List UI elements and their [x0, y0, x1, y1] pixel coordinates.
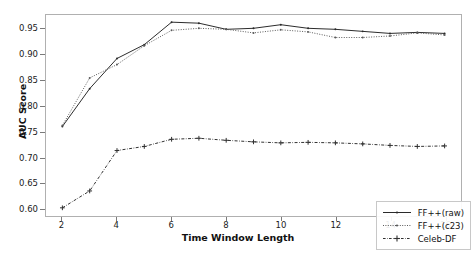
x-tick-mark — [336, 217, 337, 221]
series-marker — [143, 45, 145, 47]
legend-swatch-ffpp-raw — [382, 207, 412, 218]
x-tick-mark — [226, 217, 227, 221]
plot-area — [45, 14, 462, 217]
y-tick-label: 0.65 — [6, 178, 38, 188]
x-tick-mark — [171, 217, 172, 221]
series-marker — [362, 30, 364, 32]
series-line — [62, 138, 444, 208]
y-tick-label: 0.60 — [6, 204, 38, 214]
legend-label-ffpp-c23: FF++(c23) — [418, 221, 464, 231]
series-marker — [116, 64, 118, 66]
series-marker — [225, 28, 227, 30]
x-tick-label: 4 — [101, 220, 131, 230]
series-marker — [198, 22, 200, 24]
series-marker — [334, 37, 336, 39]
legend-label-celeb-df: Celeb-DF — [418, 234, 457, 244]
y-tick-label: 0.90 — [6, 49, 38, 59]
series-celeb-df — [60, 136, 447, 210]
series-marker — [444, 34, 446, 36]
legend-item-ffpp-raw[interactable]: FF++(raw) — [382, 206, 464, 219]
series-line — [62, 22, 444, 126]
chart-lines — [46, 15, 461, 216]
legend-swatch-celeb-df — [382, 233, 412, 244]
series-marker — [280, 29, 282, 31]
x-tick-mark — [61, 217, 62, 221]
series-marker — [389, 32, 391, 34]
series-marker — [389, 35, 391, 37]
chart-legend: FF++(raw) FF++(c23) Celeb-DF — [376, 201, 471, 250]
legend-item-ffpp-c23[interactable]: FF++(c23) — [382, 219, 464, 232]
series-marker — [171, 21, 173, 23]
legend-item-celeb-df[interactable]: Celeb-DF — [382, 232, 464, 245]
series-marker — [253, 27, 255, 29]
x-tick-mark — [281, 217, 282, 221]
x-tick-label: 2 — [46, 220, 76, 230]
series-ff-raw — [61, 21, 445, 127]
y-tick-label: 0.70 — [6, 153, 38, 163]
y-tick-label: 0.75 — [6, 127, 38, 137]
chart-figure: AUC Score 0.600.650.700.750.800.850.900.… — [0, 0, 476, 255]
x-tick-label: 8 — [211, 220, 241, 230]
series-marker — [362, 37, 364, 39]
y-tick-label: 0.85 — [6, 75, 38, 85]
series-ff-c23 — [61, 27, 445, 126]
x-tick-label: 6 — [156, 220, 186, 230]
series-marker — [198, 27, 200, 29]
legend-label-ffpp-raw: FF++(raw) — [418, 208, 464, 218]
series-marker — [89, 88, 91, 90]
series-marker — [61, 124, 63, 126]
series-marker — [116, 57, 118, 59]
y-tick-label: 0.95 — [6, 23, 38, 33]
x-tick-mark — [116, 217, 117, 221]
y-tick-label: 0.80 — [6, 101, 38, 111]
series-marker — [280, 24, 282, 26]
x-tick-label: 10 — [266, 220, 296, 230]
series-marker — [89, 77, 91, 79]
series-line — [62, 28, 444, 125]
x-tick-label: 12 — [321, 220, 351, 230]
series-marker — [307, 31, 309, 33]
series-marker — [253, 32, 255, 34]
series-marker — [171, 29, 173, 31]
series-marker — [307, 27, 309, 29]
series-marker — [334, 28, 336, 30]
series-marker — [416, 32, 418, 34]
legend-swatch-ffpp-c23 — [382, 220, 412, 231]
